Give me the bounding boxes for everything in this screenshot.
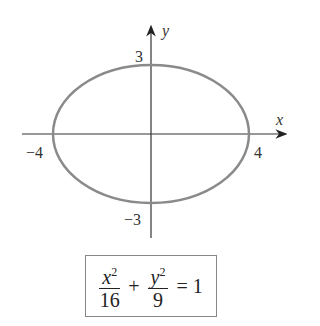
tick-y-pos: 3 [135,48,143,65]
fraction-x: x2 16 [99,261,120,311]
equation-box: x2 16 + y2 9 = 1 [85,255,217,317]
y-axis-label: y [160,22,170,40]
fraction-y: y2 9 [148,261,169,311]
tick-x-pos: 4 [254,144,262,161]
equals-one: = 1 [176,275,202,298]
tick-x-neg: −4 [26,144,43,161]
plus-sign: + [128,275,139,298]
tick-y-neg: −3 [124,211,141,228]
x-axis-label: x [275,111,283,128]
